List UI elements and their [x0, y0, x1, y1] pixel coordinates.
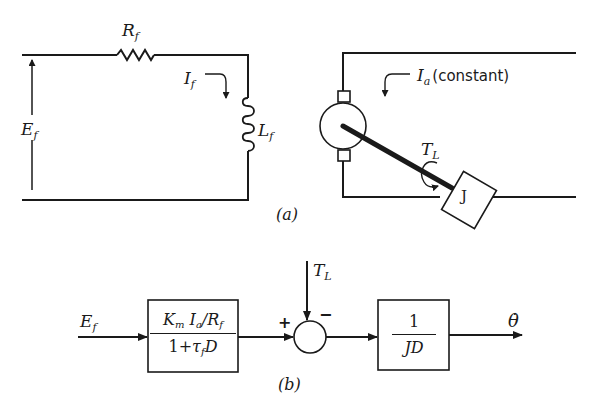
resistor-icon	[117, 50, 154, 60]
disturbance-label: TL	[313, 262, 332, 282]
block2-numerator: 1	[392, 312, 436, 335]
inertia-label: J	[461, 189, 467, 204]
armature-current-arrow-icon	[385, 74, 410, 96]
summing-junction	[294, 321, 326, 353]
field-circuit	[22, 50, 254, 200]
armature-bottom-wire-left	[343, 161, 440, 197]
input-label: Ef	[80, 313, 97, 333]
block1-denominator: 1+τfD	[150, 334, 236, 357]
armature-current-label: Ia(constant)	[417, 67, 509, 87]
block1-numerator: Km Ia/Rf	[150, 310, 236, 334]
diagram-canvas	[0, 0, 606, 406]
inertia-transfer-function: 1 JD	[392, 312, 436, 357]
plus-sign: +	[278, 313, 291, 332]
caption-b: (b)	[278, 375, 301, 394]
inductor-label: Lf	[258, 122, 273, 142]
field-transfer-function: Km Ia/Rf 1+τfD	[150, 310, 236, 357]
block2-denominator: JD	[392, 335, 436, 357]
caption-a: (a)	[276, 205, 298, 224]
field-current-label: If	[184, 70, 195, 90]
resistor-label: Rf	[122, 22, 139, 42]
minus-sign: −	[319, 305, 332, 324]
field-voltage-label: Ef	[21, 121, 38, 141]
field-current-arrow-icon	[205, 74, 226, 98]
inertia-block	[442, 171, 497, 228]
output-label: θ̇	[508, 312, 519, 330]
inductor-icon	[243, 98, 254, 151]
load-torque-label: TL	[421, 141, 440, 161]
